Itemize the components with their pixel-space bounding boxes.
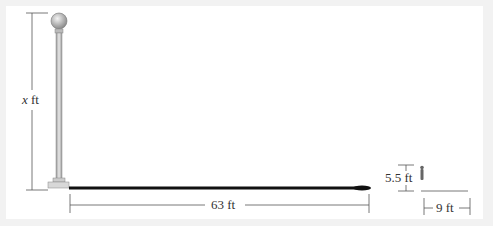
person-height-label: 5.5 ft bbox=[385, 171, 412, 185]
lamp-base bbox=[48, 182, 69, 188]
lamp-height-variable: x bbox=[22, 92, 28, 107]
lamp-shadow bbox=[69, 186, 371, 191]
lamp-bulb-icon bbox=[51, 13, 67, 29]
person-shadow-label: 9 ft bbox=[436, 201, 454, 215]
diagram-svg bbox=[0, 0, 493, 226]
lamp-height-unit: ft bbox=[31, 92, 39, 107]
lamp-height-label: x ft bbox=[22, 93, 39, 107]
person-figure bbox=[420, 166, 424, 180]
lamp-post bbox=[48, 13, 69, 188]
shadow-distance-label: 63 ft bbox=[209, 198, 237, 212]
